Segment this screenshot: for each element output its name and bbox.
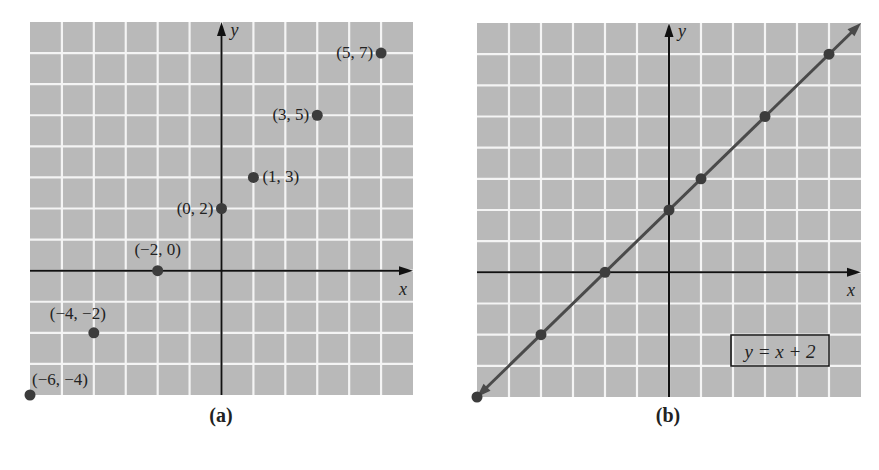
data-point (248, 172, 259, 183)
data-point (152, 265, 163, 276)
data-point (600, 267, 611, 278)
x-axis-label: x (846, 280, 855, 300)
x-axis-label: x (398, 279, 407, 299)
data-point (824, 49, 835, 60)
y-axis-label: y (676, 21, 686, 41)
caption-a: (a) (209, 404, 232, 427)
data-point (312, 110, 323, 121)
data-point (25, 390, 36, 401)
data-point-label: (3, 5) (272, 105, 309, 124)
panel-b-line-plot: xyy = x + 2 (472, 21, 862, 403)
y-axis-label: y (229, 20, 239, 40)
data-point (216, 203, 227, 214)
panel-a-scatter-plot: xy(−6, −4)(−4, −2)(−2, 0)(0, 2)(1, 3)(3,… (25, 20, 414, 401)
data-point-label: (−6, −4) (32, 370, 88, 389)
data-point (664, 205, 675, 216)
data-point-label: (5, 7) (336, 43, 373, 62)
data-point (696, 173, 707, 184)
data-point (88, 327, 99, 338)
chart-canvas: xy(−6, −4)(−4, −2)(−2, 0)(0, 2)(1, 3)(3,… (0, 0, 879, 470)
data-point (472, 392, 483, 403)
caption-b: (b) (656, 404, 680, 427)
data-point-label: (−4, −2) (50, 304, 106, 323)
data-point-label: (1, 3) (262, 167, 299, 186)
data-point-label: (−2, 0) (134, 240, 180, 259)
data-point-label: (0, 2) (177, 199, 214, 218)
data-point (376, 48, 387, 59)
equation-text: y = x + 2 (742, 341, 816, 362)
data-point (760, 111, 771, 122)
data-point (536, 329, 547, 340)
